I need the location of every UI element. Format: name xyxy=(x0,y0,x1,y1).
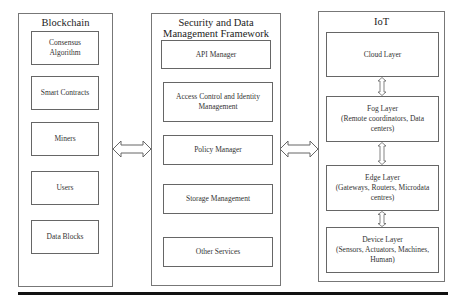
blockchain-panel: Blockchain Consensus Algorithm Smart Con… xyxy=(18,13,113,287)
consensus-algorithm-label: Consensus Algorithm xyxy=(35,38,95,58)
fog-layer-label: Fog Layer xyxy=(367,104,398,114)
cloud-layer-box: Cloud Layer xyxy=(326,32,439,77)
storage-management-label: Storage Management xyxy=(186,194,250,204)
edge-layer-box: Edge Layer (Gateways, Routers, Microdata… xyxy=(326,165,439,211)
miners-box: Miners xyxy=(31,122,99,156)
blockchain-title: Blockchain xyxy=(19,17,112,28)
bidirectional-arrow-icon xyxy=(112,140,152,158)
smart-contracts-label: Smart Contracts xyxy=(41,88,90,98)
iot-title: IoT xyxy=(319,16,444,27)
vertical-bidirectional-arrow-icon xyxy=(377,77,387,96)
api-manager-label: API Manager xyxy=(196,50,237,60)
consensus-algorithm-box: Consensus Algorithm xyxy=(31,31,99,65)
other-services-label: Other Services xyxy=(196,247,240,257)
fog-layer-detail: (Remote coordinators, Data centers) xyxy=(330,114,435,134)
access-control-box: Access Control and Identity Management xyxy=(163,82,273,122)
edge-layer-detail: (Gateways, Routers, Microdata centres) xyxy=(330,183,435,203)
iot-panel: IoT Cloud Layer Fog Layer (Remote coordi… xyxy=(318,11,445,282)
bidirectional-arrow-icon xyxy=(279,140,319,158)
framework-title: Security and Data Management Framework xyxy=(152,17,280,39)
device-layer-box: Device Layer (Sensors, Actuators, Machin… xyxy=(326,227,439,273)
other-services-box: Other Services xyxy=(163,237,273,267)
api-manager-box: API Manager xyxy=(161,40,271,69)
miners-label: Miners xyxy=(54,134,75,144)
smart-contracts-box: Smart Contracts xyxy=(31,76,99,110)
framework-panel: Security and Data Management Framework A… xyxy=(151,13,281,286)
fog-layer-box: Fog Layer (Remote coordinators, Data cen… xyxy=(326,96,439,142)
vertical-bidirectional-arrow-icon xyxy=(377,142,387,165)
edge-layer-label: Edge Layer xyxy=(365,173,400,183)
policy-manager-label: Policy Manager xyxy=(194,145,242,155)
users-label: Users xyxy=(56,183,73,193)
data-blocks-label: Data Blocks xyxy=(47,232,84,242)
bottom-rule xyxy=(18,292,448,295)
vertical-bidirectional-arrow-icon xyxy=(377,211,387,227)
users-box: Users xyxy=(31,171,99,205)
policy-manager-box: Policy Manager xyxy=(163,135,273,165)
storage-management-box: Storage Management xyxy=(163,184,273,214)
device-layer-label: Device Layer xyxy=(362,235,403,245)
cloud-layer-label: Cloud Layer xyxy=(364,50,402,60)
data-blocks-box: Data Blocks xyxy=(31,220,99,254)
access-control-label: Access Control and Identity Management xyxy=(167,92,269,112)
device-layer-detail: (Sensors, Actuators, Machines, Human) xyxy=(330,245,435,265)
